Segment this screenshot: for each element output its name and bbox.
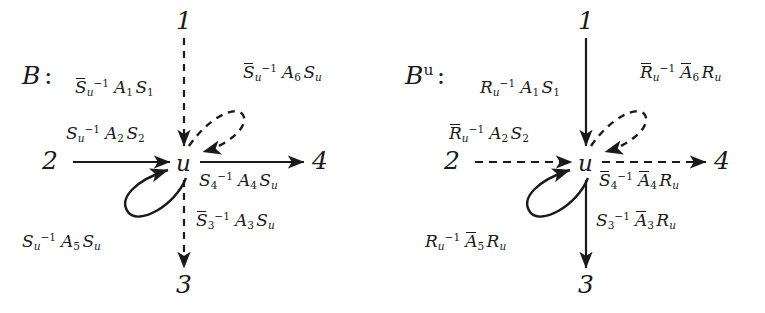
loop-path-dashed-upper-right xyxy=(189,111,244,152)
figure-canvas: B: 1 2 3 4 u Su−1A1S1 Su−1A2S2 S4−1A4Su … xyxy=(0,0,765,313)
edge-label-loop-solid-left-panel: Su−1A5Su xyxy=(22,232,101,252)
edge-label-u-to-3-left-panel: S3−1A3Su xyxy=(196,211,275,231)
node-top-left-panel: 1 xyxy=(176,8,192,33)
node-top-right-panel: 1 xyxy=(578,8,594,33)
node-bottom-right-panel: 3 xyxy=(578,272,594,297)
edge-label-2-to-u-right-panel: Ru−1A2S2 xyxy=(449,124,529,144)
right-panel-edges xyxy=(383,0,765,313)
edge-label-loop-dashed-left-panel: Su−1A6Su xyxy=(243,63,322,83)
edge-label-loop-dashed-right-panel: Ru−1A6Ru xyxy=(640,63,721,83)
panel-title-right-superscript: u xyxy=(423,61,433,79)
edge-label-2-to-u-left-panel: Su−1A2S2 xyxy=(66,124,145,144)
node-left-left-panel: 2 xyxy=(42,148,58,173)
edge-label-1-to-u-right-panel: Ru−1A1S1 xyxy=(480,78,560,98)
loop-path-solid-lower-left xyxy=(527,170,588,217)
diagram-panel-right: Bu: 1 2 3 4 u Ru−1A1S1 Ru−1A2S2 S4−1A4Ru xyxy=(383,0,765,313)
edge-label-loop-solid-right-panel: Ru−1A5Ru xyxy=(425,232,506,252)
node-right-left-panel: 4 xyxy=(312,148,328,173)
node-left-right-panel: 2 xyxy=(444,148,460,173)
edge-label-1-to-u-left-panel: Su−1A1S1 xyxy=(75,78,154,98)
node-center-u-right-panel: u xyxy=(578,152,593,175)
panel-title-right-symbol: B xyxy=(405,61,423,90)
edge-label-u-to-4-left-panel: S4−1A4Su xyxy=(199,171,278,191)
panel-title-left-symbol: B xyxy=(22,61,40,90)
panel-title-right-colon: : xyxy=(437,61,445,90)
node-right-right-panel: 4 xyxy=(714,148,730,173)
edge-label-u-to-3-right-panel: S3−1A3Ru xyxy=(596,211,676,231)
edge-label-u-to-4-right-panel: S4−1A4Ru xyxy=(599,171,679,191)
panel-title-left-colon: : xyxy=(44,61,52,90)
panel-title-right: Bu: xyxy=(405,63,445,88)
node-bottom-left-panel: 3 xyxy=(176,272,192,297)
loop-path-solid-lower-left xyxy=(125,170,186,217)
diagram-panel-left: B: 1 2 3 4 u Su−1A1S1 Su−1A2S2 S4−1A4Su … xyxy=(0,0,383,313)
loop-path-dashed-upper-right xyxy=(591,111,646,152)
panel-title-left: B: xyxy=(22,63,52,88)
node-center-u-left-panel: u xyxy=(176,152,191,175)
